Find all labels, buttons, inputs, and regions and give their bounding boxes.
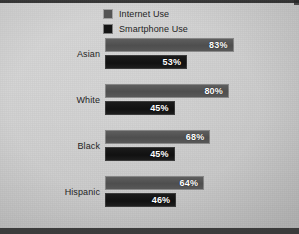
legend-swatch-icon-smartphone-use: [103, 24, 113, 34]
legend-label-smartphone-use: Smartphone Use: [119, 24, 188, 35]
chart-legend: Internet Use Smartphone Use: [103, 8, 188, 35]
bar-internet-hispanic: 64%: [105, 176, 204, 190]
category-label-black: Black: [0, 140, 100, 152]
scan-edge-corner: [294, 0, 299, 5]
bar-smartphone-black: 45%: [105, 147, 175, 161]
bar-internet-white: 80%: [105, 84, 229, 98]
bar-internet-asian: 83%: [105, 38, 234, 52]
legend-item-internet-use: Internet Use: [103, 8, 188, 20]
scan-edge-top: [0, 0, 299, 3]
bar-group-white: White 80% 45%: [0, 84, 299, 118]
bar-group-hispanic: Hispanic 64% 46%: [0, 176, 299, 210]
bar-value-internet-asian: 83%: [209, 40, 228, 50]
bar-internet-black: 68%: [105, 130, 210, 144]
bar-value-smartphone-black: 45%: [150, 149, 169, 159]
legend-label-internet-use: Internet Use: [119, 9, 169, 20]
scan-edge-bottom: [0, 228, 299, 234]
bar-group-black: Black 68% 45%: [0, 130, 299, 164]
bar-value-internet-hispanic: 64%: [180, 178, 199, 188]
bar-value-smartphone-asian: 53%: [163, 57, 182, 67]
plot-area: Asian 83% 53% White 80% 45% Black 68% 45…: [0, 38, 299, 228]
bar-group-asian: Asian 83% 53%: [0, 38, 299, 72]
bar-value-internet-white: 80%: [204, 86, 223, 96]
bar-smartphone-white: 45%: [105, 101, 175, 115]
legend-item-smartphone-use: Smartphone Use: [103, 23, 188, 35]
category-label-hispanic: Hispanic: [0, 186, 100, 198]
bar-value-smartphone-hispanic: 46%: [152, 195, 171, 205]
legend-swatch-icon-internet-use: [103, 9, 113, 19]
bar-smartphone-asian: 53%: [105, 55, 187, 69]
bar-value-smartphone-white: 45%: [150, 103, 169, 113]
category-label-asian: Asian: [0, 48, 100, 60]
bar-chart-figure: Internet Use Smartphone Use Asian 83% 53…: [0, 0, 299, 234]
bar-smartphone-hispanic: 46%: [105, 193, 176, 207]
category-label-white: White: [0, 94, 100, 106]
bar-value-internet-black: 68%: [186, 132, 205, 142]
